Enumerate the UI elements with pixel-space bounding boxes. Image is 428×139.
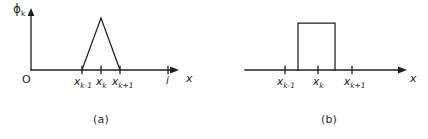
tick-label-subscript: k-1 xyxy=(80,81,92,90)
panel-b-box-function: xk-1 xk xk+1 x (b) xyxy=(214,0,428,139)
tick-label-x-k-minus-1: xk-1 xyxy=(74,76,92,87)
tick-label-x-k-plus-1: xk+1 xyxy=(112,76,134,87)
x-axis-label: x xyxy=(186,73,193,84)
panel-a-hat-function: ϕk O xk-1 xk xk+1 i x (a) xyxy=(0,0,214,139)
origin-label: O xyxy=(22,74,31,85)
tick-label-x-k: xk xyxy=(313,76,324,87)
tick-label-x-k: xk xyxy=(96,76,107,87)
tick-label-subscript: k+1 xyxy=(350,81,365,90)
x-axis-arrowhead xyxy=(398,66,407,73)
tick-label-x-k-minus-1: xk-1 xyxy=(277,76,295,87)
tick-label-subscript: k xyxy=(319,81,323,90)
hat-function-curve xyxy=(82,18,120,70)
box-function-curve xyxy=(298,23,335,70)
y-axis-arrowhead xyxy=(28,8,35,16)
y-axis-label-symbol: ϕ xyxy=(13,2,21,16)
x-axis-arrowhead xyxy=(170,66,179,73)
figure-container: ϕk O xk-1 xk xk+1 i x (a) xyxy=(0,0,428,139)
tick-label-subscript: k xyxy=(102,81,106,90)
tick-label-x-k-plus-1: xk+1 xyxy=(344,76,366,87)
tick-label-subscript: k-1 xyxy=(283,81,295,90)
tick-label-i: i xyxy=(166,75,169,86)
panel-b-caption: (b) xyxy=(222,113,428,126)
y-axis-label: ϕk xyxy=(13,3,25,15)
x-axis-label: x xyxy=(410,73,417,84)
y-axis-label-subscript: k xyxy=(21,9,25,18)
panel-a-caption: (a) xyxy=(0,113,208,126)
tick-label-subscript: k+1 xyxy=(118,81,133,90)
